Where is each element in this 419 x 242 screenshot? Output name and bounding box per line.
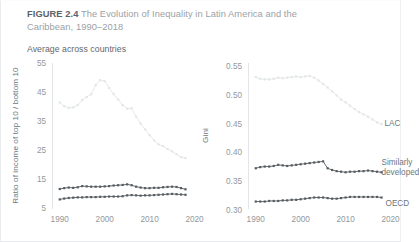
data-point bbox=[166, 186, 168, 188]
data-point bbox=[77, 104, 79, 106]
y-tick-label: 25 bbox=[37, 146, 46, 155]
data-point bbox=[264, 165, 266, 167]
data-point bbox=[313, 196, 315, 198]
data-point bbox=[77, 196, 79, 198]
data-point bbox=[81, 196, 83, 198]
data-point bbox=[336, 170, 338, 172]
y-axis-label-gini: Gini bbox=[199, 59, 211, 211]
data-point bbox=[59, 188, 61, 190]
data-point bbox=[68, 197, 70, 199]
data-point bbox=[153, 139, 155, 141]
figure-heading: FIGURE 2.4 The Evolution of Inequality i… bbox=[27, 8, 379, 35]
data-point bbox=[162, 145, 164, 147]
data-point bbox=[113, 195, 115, 197]
data-point bbox=[99, 186, 101, 188]
data-point bbox=[90, 196, 92, 198]
y-tick-label: 0.45 bbox=[226, 119, 242, 128]
data-point bbox=[63, 187, 65, 189]
data-point bbox=[268, 78, 270, 80]
data-point bbox=[273, 200, 275, 202]
data-point bbox=[282, 77, 284, 79]
x-axis-ticks-gini: 1990200020102020 bbox=[213, 215, 395, 229]
data-point bbox=[63, 105, 65, 107]
y-axis-ticks-ratio: 51525354555 bbox=[23, 59, 49, 211]
data-point bbox=[180, 156, 182, 158]
data-point bbox=[122, 104, 124, 106]
data-point bbox=[117, 195, 119, 197]
data-point bbox=[300, 76, 302, 78]
data-point bbox=[353, 171, 355, 173]
data-point bbox=[135, 116, 137, 118]
data-point bbox=[148, 187, 150, 189]
data-point bbox=[135, 194, 137, 196]
data-point bbox=[268, 165, 270, 167]
data-point bbox=[140, 122, 142, 124]
data-point bbox=[304, 198, 306, 200]
gini-line-chart bbox=[249, 59, 395, 211]
data-point bbox=[86, 96, 88, 98]
data-point bbox=[86, 185, 88, 187]
data-point bbox=[282, 164, 284, 166]
data-point bbox=[353, 108, 355, 110]
data-point bbox=[264, 78, 266, 80]
plot-area-gini bbox=[249, 59, 393, 211]
data-point bbox=[322, 160, 324, 162]
data-point bbox=[331, 198, 333, 200]
data-point bbox=[259, 200, 261, 202]
data-point bbox=[331, 90, 333, 92]
data-point bbox=[117, 98, 119, 100]
figure-title-line-2: Caribbean, 1990–2018 bbox=[27, 21, 379, 34]
data-point bbox=[295, 75, 297, 77]
series-label-similarly-line2: developed bbox=[382, 168, 419, 177]
data-point bbox=[277, 164, 279, 166]
y-tick-label: 0.50 bbox=[226, 90, 242, 99]
data-point bbox=[313, 77, 315, 79]
data-point bbox=[376, 196, 378, 198]
data-point bbox=[304, 163, 306, 165]
data-point bbox=[108, 195, 110, 197]
data-point bbox=[104, 80, 106, 82]
data-point bbox=[322, 83, 324, 85]
data-point bbox=[313, 161, 315, 163]
data-point bbox=[300, 198, 302, 200]
data-point bbox=[349, 196, 351, 198]
data-point bbox=[99, 79, 101, 81]
data-point bbox=[126, 183, 128, 185]
data-point bbox=[362, 196, 364, 198]
data-point bbox=[95, 196, 97, 198]
data-point bbox=[180, 193, 182, 195]
data-point bbox=[264, 200, 266, 202]
data-point bbox=[90, 93, 92, 95]
data-point bbox=[282, 199, 284, 201]
data-point bbox=[68, 186, 70, 188]
x-tick-label: 2010 bbox=[140, 215, 158, 224]
data-point bbox=[175, 153, 177, 155]
data-point bbox=[184, 157, 186, 159]
data-point bbox=[153, 194, 155, 196]
data-point bbox=[131, 107, 133, 109]
y-tick-label: 35 bbox=[37, 117, 46, 126]
data-point bbox=[273, 78, 275, 80]
data-point bbox=[59, 101, 61, 103]
y-tick-label: 5 bbox=[41, 204, 46, 213]
data-point bbox=[331, 169, 333, 171]
data-point bbox=[144, 128, 146, 130]
y-tick-label: 15 bbox=[37, 175, 46, 184]
x-tick-label: 2010 bbox=[336, 215, 354, 224]
data-point bbox=[318, 79, 320, 81]
data-point bbox=[291, 76, 293, 78]
data-point bbox=[255, 76, 257, 78]
data-point bbox=[131, 194, 133, 196]
data-point bbox=[117, 184, 119, 186]
data-point bbox=[140, 186, 142, 188]
data-point bbox=[371, 170, 373, 172]
y-tick-label: 0.55 bbox=[226, 62, 242, 71]
data-point bbox=[171, 186, 173, 188]
data-point bbox=[353, 196, 355, 198]
data-point bbox=[113, 93, 115, 95]
data-point bbox=[157, 187, 159, 189]
y-tick-label: 0.30 bbox=[226, 205, 242, 214]
data-point bbox=[380, 196, 382, 198]
data-point bbox=[322, 196, 324, 198]
